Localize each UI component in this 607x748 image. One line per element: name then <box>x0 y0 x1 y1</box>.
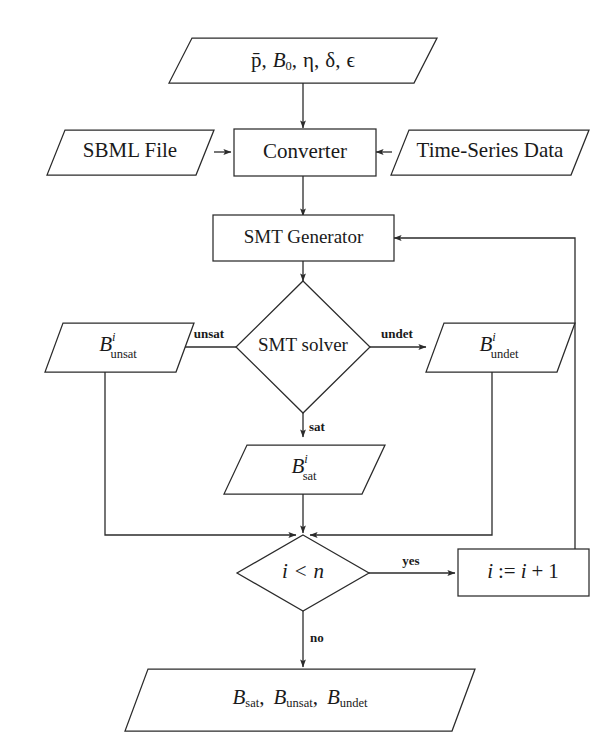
flowchart-canvas: p̄,B0,η,δ,ϵ SBML File Time-Series Data C… <box>0 0 607 748</box>
out-sep-1: , <box>259 685 264 709</box>
param-p-bar: p̄ <box>251 47 262 71</box>
param-eta: η <box>303 47 314 71</box>
smt-solver-label: SMT solver <box>258 334 349 355</box>
smt-generator-label: SMT Generator <box>244 226 364 247</box>
edge-increment-to-generator <box>394 238 575 573</box>
converter-label: Converter <box>263 139 347 163</box>
param-delta: δ <box>325 47 335 71</box>
increment-label: i:=i+1 <box>487 559 559 583</box>
edge-label-unsat: unsat <box>194 326 225 341</box>
edge-label-yes: yes <box>402 553 419 568</box>
out-b2-sub: unsat <box>286 696 313 710</box>
edge-label-undet: undet <box>381 326 413 341</box>
increment-plus: + <box>532 559 544 583</box>
loop-test-op: < <box>295 559 307 583</box>
param-sep-4: , <box>335 47 340 71</box>
out-b2-base: B <box>273 685 286 709</box>
param-b0-base: B <box>273 47 286 71</box>
increment-lhs: i <box>487 559 493 583</box>
increment-rhs-num: 1 <box>548 559 559 583</box>
flowchart-svg: p̄,B0,η,δ,ϵ SBML File Time-Series Data C… <box>0 0 607 748</box>
b-unsat-sub: unsat <box>110 347 137 361</box>
out-b3-base: B <box>327 685 340 709</box>
out-sep-2: , <box>313 685 318 709</box>
edge-label-no: no <box>310 630 324 645</box>
out-b1-sub: sat <box>245 696 259 710</box>
increment-rhs-var: i <box>521 559 527 583</box>
loop-test-bound: n <box>314 559 325 583</box>
sbml-file-label: SBML File <box>83 138 177 162</box>
edge-label-sat: sat <box>309 419 326 434</box>
out-b1-base: B <box>232 685 245 709</box>
param-epsilon: ϵ <box>346 47 355 71</box>
params-input-label: p̄,B0,η,δ,ϵ <box>251 47 355 72</box>
out-b3-sub: undet <box>340 696 368 710</box>
b-undet-sup: i <box>492 330 496 344</box>
b-undet-sub: undet <box>491 347 519 361</box>
param-sep-3: , <box>314 47 319 71</box>
b-unsat-sup: i <box>112 330 116 344</box>
b-sat-sup: i <box>304 452 308 466</box>
b-sat-sub: sat <box>303 469 317 483</box>
loop-test-var: i <box>282 559 288 583</box>
param-sep-1: , <box>262 47 267 71</box>
increment-assign: := <box>498 559 516 583</box>
time-series-data-label: Time-Series Data <box>417 138 564 162</box>
param-sep-2: , <box>292 47 297 71</box>
